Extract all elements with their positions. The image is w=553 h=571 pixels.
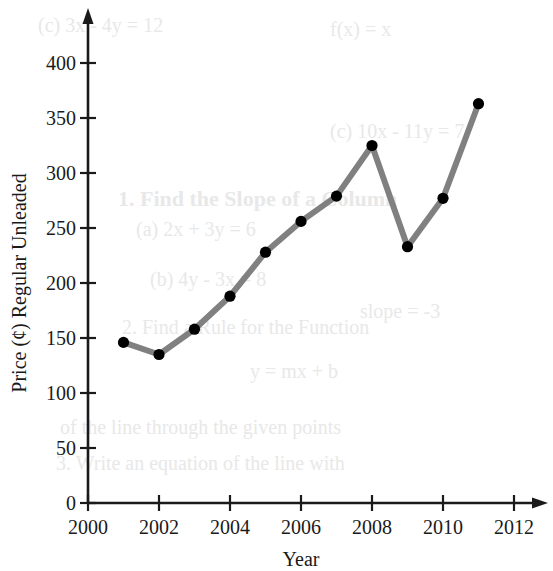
data-point (473, 98, 484, 109)
x-tick-label: 2004 (210, 516, 250, 538)
y-tick-label: 250 (46, 217, 76, 239)
y-tick-label: 150 (46, 327, 76, 349)
y-tick-label: 200 (46, 272, 76, 294)
y-tick-label: 400 (46, 52, 76, 74)
x-tick-label: 2006 (281, 516, 321, 538)
x-axis-title: Year (283, 548, 320, 570)
x-axis: 2000 2002 2004 2006 2008 2010 2012 Year (68, 495, 548, 570)
data-point (437, 193, 448, 204)
x-tick-label: 2000 (68, 516, 108, 538)
data-point-markers (118, 98, 484, 360)
x-tick-label: 2010 (423, 516, 463, 538)
y-tick-label: 100 (46, 382, 76, 404)
data-point (295, 216, 306, 227)
line-chart: 0 50 100 150 200 250 300 350 400 Price (… (0, 0, 553, 571)
x-tick-label: 2008 (352, 516, 392, 538)
data-series-line (124, 104, 479, 355)
x-axis-arrowhead (532, 498, 548, 509)
y-axis-title: Price (¢) Regular Unleaded (8, 173, 31, 392)
data-point (118, 337, 129, 348)
x-tick-label: 2012 (494, 516, 534, 538)
y-tick-label: 350 (46, 107, 76, 129)
data-point (331, 191, 342, 202)
y-tick-label: 0 (66, 492, 76, 514)
data-point (260, 247, 271, 258)
y-tick-label: 50 (56, 437, 76, 459)
chart-page: (c) 3x - 4y = 12 f(x) = x 1. Find the Sl… (0, 0, 553, 571)
data-point (224, 291, 235, 302)
y-axis-arrowhead (83, 8, 94, 24)
data-point (366, 140, 377, 151)
data-point (189, 324, 200, 335)
y-axis: 0 50 100 150 200 250 300 350 400 Price (… (8, 8, 96, 514)
y-tick-label: 300 (46, 162, 76, 184)
x-tick-label: 2002 (139, 516, 179, 538)
data-point (153, 349, 164, 360)
data-point (402, 241, 413, 252)
